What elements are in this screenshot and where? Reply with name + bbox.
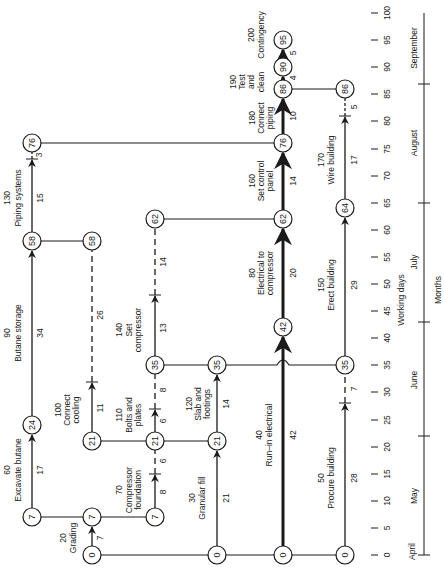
node-21: 21 <box>208 432 226 450</box>
svg-text:0: 0 <box>278 552 288 557</box>
svg-text:29: 29 <box>349 280 359 290</box>
svg-text:90: 90 <box>278 62 288 72</box>
svg-text:8: 8 <box>158 387 168 392</box>
svg-text:5: 5 <box>382 525 392 530</box>
node-21: 21 <box>83 432 101 450</box>
svg-text:45: 45 <box>382 306 392 316</box>
svg-text:15: 15 <box>382 469 392 479</box>
svg-text:28: 28 <box>349 473 359 483</box>
svg-text:5: 5 <box>288 50 298 55</box>
svg-text:50: 50 <box>382 279 392 289</box>
node-76: 76 <box>23 134 41 152</box>
svg-text:20: 20 <box>288 268 298 278</box>
node-64: 64 <box>336 199 354 217</box>
node-7: 7 <box>23 508 41 526</box>
node-95: 95 <box>274 31 292 49</box>
connector-lines <box>32 89 345 555</box>
svg-text:55: 55 <box>382 252 392 262</box>
svg-text:35: 35 <box>382 360 392 370</box>
svg-text:17: 17 <box>349 155 359 165</box>
svg-text:86: 86 <box>278 84 288 94</box>
axis-title-months: Months <box>433 276 443 304</box>
node-21: 21 <box>146 432 164 450</box>
svg-text:21: 21 <box>212 436 222 446</box>
node-62: 62 <box>146 210 164 228</box>
svg-text:30: 30 <box>382 387 392 397</box>
svg-text:95: 95 <box>278 35 288 45</box>
svg-text:40: 40 <box>382 333 392 343</box>
svg-text:20: 20 <box>382 442 392 452</box>
svg-text:7: 7 <box>27 514 37 519</box>
node-35: 35 <box>336 356 354 374</box>
svg-text:34: 34 <box>35 328 45 338</box>
svg-text:13: 13 <box>158 323 168 333</box>
node-86: 86 <box>274 80 292 98</box>
svg-text:September: September <box>409 27 419 69</box>
svg-text:58: 58 <box>87 236 97 246</box>
svg-text:7: 7 <box>349 386 359 391</box>
svg-text:100: 100 <box>382 6 392 20</box>
svg-text:42: 42 <box>288 430 298 440</box>
svg-text:piping: piping <box>265 106 275 129</box>
svg-text:7: 7 <box>95 535 105 540</box>
event-nodes: 0 0 0 0 7 7 7 24 21 21 21 35 35 35 42 58… <box>23 31 354 564</box>
svg-text:24: 24 <box>27 420 37 430</box>
svg-text:62: 62 <box>278 214 288 224</box>
svg-text:compressor: compressor <box>265 251 275 296</box>
axis-ticks <box>371 13 378 555</box>
svg-text:76: 76 <box>27 138 37 148</box>
svg-text:7: 7 <box>87 514 97 519</box>
svg-text:0: 0 <box>212 552 222 557</box>
svg-text:14: 14 <box>221 399 231 409</box>
cpm-network-diagram: 0 0 0 0 7 7 7 24 21 21 21 35 35 35 42 58… <box>0 0 444 569</box>
svg-text:35: 35 <box>150 360 160 370</box>
axis-title-working-days: Working days <box>396 274 406 325</box>
svg-text:170: 170 <box>316 153 326 167</box>
svg-text:150: 150 <box>316 278 326 292</box>
svg-text:65: 65 <box>382 198 392 208</box>
svg-text:60: 60 <box>382 225 392 235</box>
node-24: 24 <box>23 416 41 434</box>
svg-text:21: 21 <box>150 436 160 446</box>
svg-text:62: 62 <box>150 214 160 224</box>
node-0: 0 <box>274 546 292 564</box>
svg-text:plates: plates <box>133 404 143 427</box>
svg-text:130: 130 <box>2 191 12 205</box>
svg-text:footings: footings <box>202 389 212 419</box>
svg-text:Excavate butane: Excavate butane <box>13 438 23 502</box>
node-35: 35 <box>146 356 164 374</box>
svg-text:14: 14 <box>288 176 298 186</box>
node-42: 42 <box>274 318 292 336</box>
svg-text:40: 40 <box>254 430 264 440</box>
svg-text:0: 0 <box>87 552 97 557</box>
svg-text:30: 30 <box>187 493 197 503</box>
svg-text:26: 26 <box>95 310 105 320</box>
svg-text:Erect building: Erect building <box>326 259 336 311</box>
svg-text:76: 76 <box>278 138 288 148</box>
svg-text:11: 11 <box>95 403 105 412</box>
node-35: 35 <box>208 356 226 374</box>
svg-text:April: April <box>407 543 417 560</box>
svg-text:Wire building: Wire building <box>326 135 336 184</box>
svg-text:50: 50 <box>316 473 326 483</box>
svg-text:Contingency: Contingency <box>256 11 266 59</box>
svg-text:0: 0 <box>382 552 392 557</box>
svg-text:8: 8 <box>158 489 168 494</box>
svg-text:July: July <box>409 254 419 270</box>
svg-text:10: 10 <box>288 111 298 121</box>
svg-text:70: 70 <box>114 485 124 495</box>
svg-text:5: 5 <box>349 104 359 109</box>
svg-text:20: 20 <box>58 533 68 543</box>
activity-labels: 20 Grading 7 60 Excavate butane 17 90 Bu… <box>2 11 359 553</box>
svg-text:58: 58 <box>27 236 37 246</box>
svg-text:80: 80 <box>382 116 392 126</box>
node-62: 62 <box>274 210 292 228</box>
svg-text:August: August <box>409 129 419 156</box>
svg-text:Run–in electrical: Run–in electrical <box>264 403 274 466</box>
svg-text:64: 64 <box>340 203 350 213</box>
svg-text:Grading: Grading <box>68 523 78 554</box>
node-7: 7 <box>83 508 101 526</box>
node-76: 76 <box>274 134 292 152</box>
node-0: 0 <box>83 546 101 564</box>
svg-text:35: 35 <box>340 360 350 370</box>
